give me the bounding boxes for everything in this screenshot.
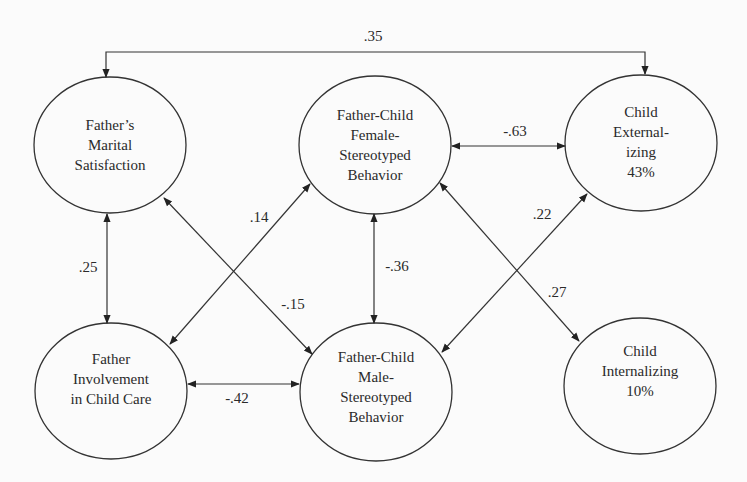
edge-marital-externalizing — [106, 52, 645, 77]
edge-involvement-female — [170, 184, 310, 344]
label-line: Father-Child — [338, 347, 414, 367]
label-line: Internalizing — [602, 361, 679, 381]
label-line: Father-Child — [337, 105, 413, 125]
label-line: Marital — [75, 135, 146, 155]
coef-female-male: -.36 — [385, 258, 409, 275]
edge-male-externalizing — [442, 194, 587, 352]
label-line: Child — [602, 341, 679, 361]
edge-female-internalizing — [440, 183, 579, 341]
label-line: Stereotyped — [338, 387, 414, 407]
node-externalizing-label: Child External- izing 43% — [613, 102, 669, 182]
node-involvement-label: Father Involvement in Child Care — [71, 349, 152, 409]
coef-marital-male: -.15 — [281, 296, 305, 313]
label-line: Child — [613, 102, 669, 122]
coef-involvement-female: .14 — [250, 209, 269, 226]
label-line: Behavior — [337, 165, 413, 185]
edge-marital-male — [164, 198, 312, 354]
label-line: Female- — [337, 125, 413, 145]
label-line: Father’s — [75, 115, 146, 135]
label-line: in Child Care — [71, 389, 152, 409]
coef-male-externalizing: .22 — [533, 206, 552, 223]
label-line: 43% — [613, 162, 669, 182]
node-internalizing-label: Child Internalizing 10% — [602, 341, 679, 401]
label-line: Behavior — [338, 407, 414, 427]
label-line: Satisfaction — [75, 155, 146, 175]
node-male-label: Father-Child Male- Stereotyped Behavior — [338, 347, 414, 427]
coef-marital-externalizing: .35 — [364, 28, 383, 45]
label-line: External- — [613, 122, 669, 142]
label-line: Stereotyped — [337, 145, 413, 165]
node-female-label: Father-Child Female- Stereotyped Behavio… — [337, 105, 413, 185]
node-marital-label: Father’s Marital Satisfaction — [75, 115, 146, 175]
coef-female-externalizing: -.63 — [503, 123, 527, 140]
coef-involvement-male: -.42 — [225, 390, 249, 407]
label-line: Father — [71, 349, 152, 369]
label-line: Male- — [338, 367, 414, 387]
label-line: 10% — [602, 381, 679, 401]
coef-female-internalizing: .27 — [548, 284, 567, 301]
label-line: Involvement — [71, 369, 152, 389]
coef-marital-involvement: .25 — [79, 259, 98, 276]
label-line: izing — [613, 142, 669, 162]
